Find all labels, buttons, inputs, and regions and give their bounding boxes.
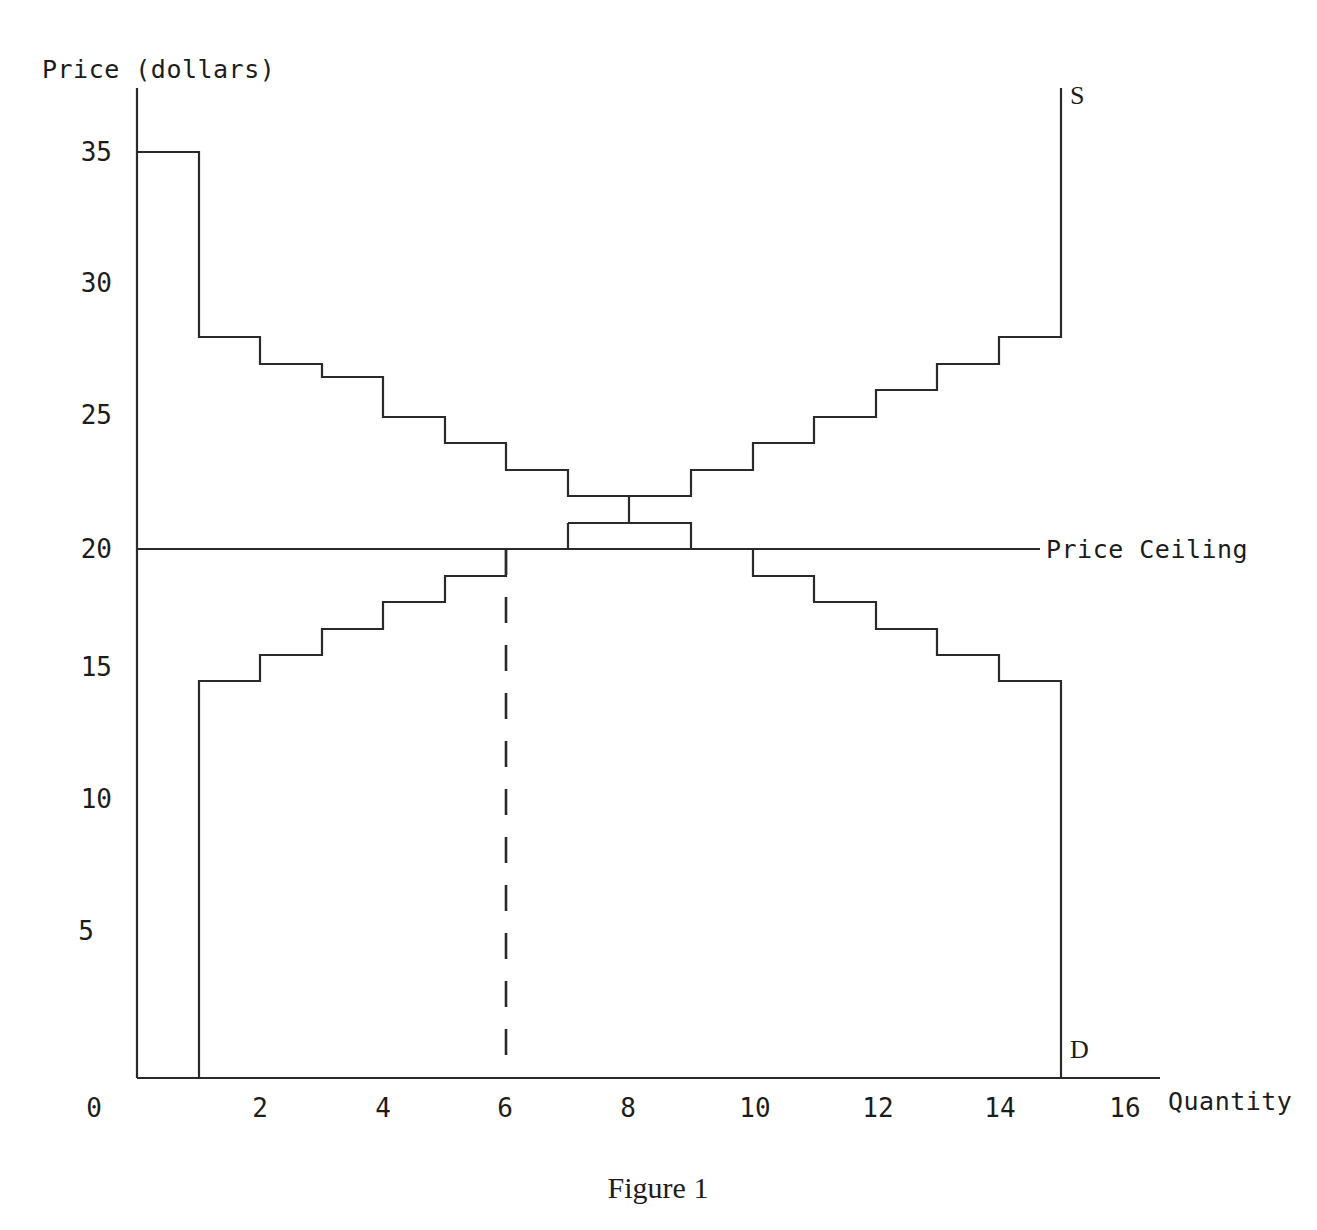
y-tick-label-5: 5 bbox=[78, 916, 94, 946]
demand-curve-right bbox=[753, 549, 1061, 1078]
supply-curve bbox=[137, 88, 1061, 496]
y-tick-label-15: 15 bbox=[81, 652, 112, 682]
y-tick-label-20: 20 bbox=[81, 534, 112, 564]
y-tick-label-10: 10 bbox=[81, 784, 112, 814]
supply-curve-label: S bbox=[1070, 81, 1084, 110]
demand-curve-label: D bbox=[1070, 1035, 1089, 1064]
figure-page: Price (dollars) Quantity 5 10 15 20 25 3… bbox=[0, 0, 1317, 1230]
y-tick-label-30: 30 bbox=[81, 268, 112, 298]
x-tick-label-10: 10 bbox=[739, 1093, 770, 1123]
price-ceiling-label: Price Ceiling bbox=[1046, 535, 1248, 564]
x-tick-label-14: 14 bbox=[984, 1093, 1015, 1123]
x-axis-title: Quantity bbox=[1168, 1087, 1292, 1116]
x-tick-label-16: 16 bbox=[1109, 1093, 1140, 1123]
demand-curve-left bbox=[199, 549, 506, 1078]
x-tick-label-2: 2 bbox=[252, 1093, 268, 1123]
price-ceiling-chart: Price (dollars) Quantity 5 10 15 20 25 3… bbox=[0, 0, 1317, 1230]
supply-equilibrium-box bbox=[568, 523, 691, 549]
y-axis-title: Price (dollars) bbox=[42, 55, 275, 84]
x-tick-label-4: 4 bbox=[375, 1093, 391, 1123]
y-tick-label-25: 25 bbox=[81, 400, 112, 430]
x-tick-label-0: 0 bbox=[86, 1093, 102, 1123]
x-tick-label-6: 6 bbox=[497, 1093, 513, 1123]
x-tick-label-8: 8 bbox=[620, 1093, 636, 1123]
figure-caption: Figure 1 bbox=[608, 1171, 709, 1204]
x-tick-label-12: 12 bbox=[862, 1093, 893, 1123]
y-tick-label-35: 35 bbox=[81, 137, 112, 167]
